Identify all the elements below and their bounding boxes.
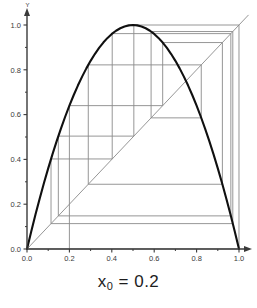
x-tick-label: 0.0 <box>22 254 32 263</box>
x-tick-label: 0.8 <box>191 254 201 263</box>
figure-root: Y0.00.20.40.60.81.00.00.20.40.60.81.0 x0… <box>0 0 257 308</box>
caption: x0 = 0.2 <box>0 272 257 292</box>
x-tick-label: 1.0 <box>234 254 244 263</box>
x-tick-label: 0.2 <box>64 254 74 263</box>
x-tick-label: 0.6 <box>149 254 159 263</box>
x-axis-arrow <box>244 246 252 252</box>
cobweb-plot: Y0.00.20.40.60.81.00.00.20.40.60.81.0 <box>0 0 257 308</box>
y-tick-label: 0.0 <box>11 245 21 254</box>
y-tick-label: 0.6 <box>11 110 21 119</box>
x-tick-label: 0.4 <box>107 254 117 263</box>
caption-value: = 0.2 <box>113 272 159 291</box>
y-tick-label: 0.8 <box>11 66 21 75</box>
y-axis-label: Y <box>25 2 29 8</box>
caption-variable: x <box>98 272 107 291</box>
y-tick-label: 1.0 <box>11 21 21 30</box>
y-axis-arrow <box>24 8 30 16</box>
y-tick-label: 0.4 <box>11 155 21 164</box>
y-tick-label: 0.2 <box>11 200 21 209</box>
